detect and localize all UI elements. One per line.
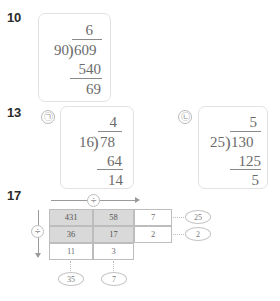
problem-number-10: 10 [7,10,21,25]
worksheet-page: 10 6 90 ) 609 540 69 13 ㉠ 4 16 ) 78 [0,0,280,301]
division-bracket-icon: ) [93,134,99,151]
subtraction-bar [70,78,102,79]
work-box-problem-13-part-a: 4 16 ) 78 64 14 [60,106,134,189]
subtrahend-value: 64 [98,154,122,169]
grid-cell[interactable]: 58 [93,209,134,226]
divisor-value: 90 [47,43,69,58]
division-bar [72,39,102,40]
column-operator-badge: ÷ [31,225,44,238]
column-connector-dots [70,261,71,271]
remainder-value: 69 [75,82,101,97]
quotient-value: 6 [79,23,93,38]
division-bracket-icon: ) [68,42,74,59]
dividend-value: 130 [231,135,254,150]
grid-cell[interactable]: 17 [93,226,134,243]
work-box-problem-10: 6 90 ) 609 540 69 [38,13,111,102]
row-connector-dots [173,217,184,218]
division-bar [98,131,122,132]
grid-cell[interactable]: 431 [49,209,93,226]
remainder-value: 5 [241,173,259,188]
problem-number-17: 17 [7,188,21,203]
divisor-value: 16 [72,135,94,150]
remainder-value: 14 [99,173,123,188]
column-result-bubble[interactable]: 35 [58,272,84,286]
row-arrow-head-icon [135,197,140,203]
part-marker-b: ㉡ [178,110,192,124]
column-connector-dots [113,261,114,271]
grid-cell[interactable]: 11 [49,243,93,260]
dividend-value: 78 [100,135,115,150]
divisor-value: 25 [203,135,225,150]
quotient-value: 4 [103,115,117,130]
work-box-problem-13-part-b: 5 25 ) 130 125 5 [198,106,268,189]
column-arrow-head-icon [35,253,41,258]
row-result-bubble[interactable]: 2 [185,227,211,241]
division-bar [230,131,261,132]
grid-cell[interactable]: 3 [93,243,134,260]
column-result-bubble[interactable]: 7 [101,272,127,286]
part-marker-a: ㉠ [41,110,55,124]
grid-cell[interactable]: 2 [134,226,172,243]
row-result-bubble[interactable]: 25 [185,210,211,224]
subtrahend-value: 540 [70,62,101,77]
subtraction-bar [230,169,261,170]
quotient-value: 5 [243,115,257,130]
row-operator-badge: ÷ [87,194,100,207]
grid-cell[interactable]: 36 [49,226,93,243]
row-connector-dots [173,234,184,235]
subtraction-bar [97,169,123,170]
subtrahend-value: 125 [230,154,261,169]
grid-cell[interactable]: 7 [134,209,172,226]
division-bracket-icon: ) [225,134,231,151]
problem-number-13: 13 [7,105,21,120]
dividend-value: 609 [74,43,97,58]
